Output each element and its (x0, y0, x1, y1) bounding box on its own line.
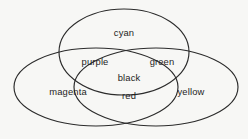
label-red: red (122, 90, 136, 101)
venn-diagram-canvas: cyan purple green black magenta red yell… (0, 0, 248, 139)
label-green: green (150, 56, 175, 67)
label-cyan: cyan (114, 27, 134, 38)
venn-diagram: cyan purple green black magenta red yell… (0, 0, 248, 139)
label-purple: purple (82, 56, 109, 67)
label-black: black (118, 72, 141, 83)
label-yellow: yellow (178, 86, 205, 97)
label-magenta: magenta (49, 86, 87, 97)
